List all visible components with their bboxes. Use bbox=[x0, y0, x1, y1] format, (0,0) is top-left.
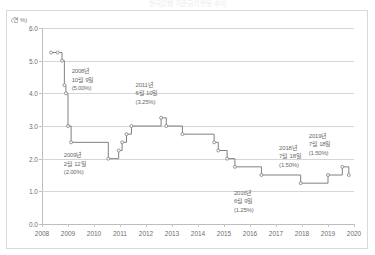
annotation-a2016: 2016년6월 9일(1.25%) bbox=[234, 189, 254, 215]
x-tick-label: 2010 bbox=[87, 230, 101, 237]
data-point-marker bbox=[181, 133, 184, 136]
x-tick-label: 2014 bbox=[191, 230, 205, 237]
x-tick-mark bbox=[250, 224, 251, 227]
x-tick-label: 2015 bbox=[217, 230, 231, 237]
data-point-marker bbox=[327, 174, 330, 177]
y-tick-label: 2.0 bbox=[29, 155, 38, 162]
data-point-marker bbox=[117, 149, 120, 152]
annotation-rate: (1.50%) bbox=[279, 161, 301, 170]
x-tick-mark bbox=[172, 224, 173, 227]
x-tick-mark bbox=[276, 224, 277, 227]
x-tick-mark bbox=[146, 224, 147, 227]
annotation-year: 2008년 bbox=[72, 67, 94, 76]
y-tick-label: 1.0 bbox=[29, 188, 38, 195]
data-point-marker bbox=[260, 174, 263, 177]
annotation-rate: (3.25%) bbox=[136, 98, 158, 107]
x-tick-label: 2016 bbox=[243, 230, 257, 237]
x-tick-label: 2008 bbox=[35, 230, 49, 237]
data-point-marker bbox=[125, 133, 128, 136]
annotation-year: 2018년 bbox=[279, 144, 301, 153]
x-tick-mark bbox=[328, 224, 329, 227]
x-tick-mark bbox=[68, 224, 69, 227]
x-tick-mark bbox=[120, 224, 121, 227]
data-point-marker bbox=[121, 141, 124, 144]
data-point-marker bbox=[130, 125, 133, 128]
x-tick-mark bbox=[224, 224, 225, 227]
annotation-year: 2009년 bbox=[64, 151, 86, 160]
x-tick-mark bbox=[302, 224, 303, 227]
x-tick-label: 2017 bbox=[269, 230, 283, 237]
data-point-marker bbox=[67, 125, 70, 128]
y-tick-label: 3.0 bbox=[29, 123, 38, 130]
annotation-date: 6월 9일 bbox=[234, 197, 254, 206]
data-point-marker bbox=[341, 165, 344, 168]
annotation-date: 6월 10일 bbox=[136, 89, 158, 98]
x-tick-mark bbox=[94, 224, 95, 227]
x-tick-label: 2018 bbox=[295, 230, 309, 237]
data-point-marker bbox=[50, 51, 53, 54]
data-point-marker bbox=[226, 157, 229, 160]
y-tick-label: 4.0 bbox=[29, 90, 38, 97]
annotation-year: 2019년 bbox=[309, 132, 331, 141]
x-tick-label: 2012 bbox=[139, 230, 153, 237]
x-tick-mark bbox=[354, 224, 355, 227]
y-tick-label: 0.0 bbox=[29, 221, 38, 228]
x-tick-mark bbox=[42, 224, 43, 227]
data-point-marker bbox=[61, 59, 64, 62]
annotation-a2011: 2011년6월 10일(3.25%) bbox=[136, 81, 158, 107]
annotation-date: 2월 12일 bbox=[64, 160, 86, 169]
plot-area: 0.01.02.03.04.05.06.0 200820092010201120… bbox=[42, 28, 354, 224]
y-tick-label: 6.0 bbox=[29, 25, 38, 32]
y-axis-unit-label: (연 %) bbox=[11, 15, 27, 24]
annotation-a2008: 2008년10월 9일(5.00%) bbox=[72, 67, 94, 93]
chart-title: 한국은행 기준금리 변동 추이 bbox=[0, 0, 375, 9]
data-point-marker bbox=[160, 116, 163, 119]
x-tick-label: 2013 bbox=[165, 230, 179, 237]
x-tick-label: 2019 bbox=[321, 230, 335, 237]
data-point-marker bbox=[299, 182, 302, 185]
rate-step-series bbox=[42, 28, 354, 224]
annotation-date: 10월 9일 bbox=[72, 76, 94, 85]
y-tick-label: 5.0 bbox=[29, 57, 38, 64]
data-point-marker bbox=[63, 84, 66, 87]
annotation-rate: (1.50%) bbox=[309, 149, 331, 158]
annotation-rate: (5.00%) bbox=[72, 84, 94, 93]
annotation-date: 7월 18일 bbox=[309, 140, 331, 149]
annotation-rate: (1.25%) bbox=[234, 206, 254, 215]
annotation-a2019: 2019년7월 18일(1.50%) bbox=[309, 132, 331, 158]
x-tick-label: 2011 bbox=[113, 230, 127, 237]
x-tick-label: 2020 bbox=[347, 230, 361, 237]
annotation-a2009: 2009년2월 12일(2.00%) bbox=[64, 151, 86, 177]
data-point-marker bbox=[213, 141, 216, 144]
chart-root: 한국은행 기준금리 변동 추이 (연 %) 0.01.02.03.04.05.0… bbox=[0, 0, 375, 255]
data-point-marker bbox=[64, 92, 67, 95]
data-point-marker bbox=[56, 51, 59, 54]
annotation-date: 7월 18일 bbox=[279, 152, 301, 161]
x-tick-mark bbox=[198, 224, 199, 227]
data-point-marker bbox=[233, 165, 236, 168]
data-point-markers bbox=[50, 51, 351, 185]
step-line bbox=[51, 53, 349, 184]
data-point-marker bbox=[165, 125, 168, 128]
data-point-marker bbox=[70, 141, 73, 144]
data-point-marker bbox=[107, 157, 110, 160]
annotation-year: 2016년 bbox=[234, 189, 254, 198]
annotation-year: 2011년 bbox=[136, 81, 158, 90]
x-tick-label: 2009 bbox=[61, 230, 75, 237]
annotation-rate: (2.00%) bbox=[64, 168, 86, 177]
data-point-marker bbox=[217, 149, 220, 152]
annotation-a2018: 2018년7월 18일(1.50%) bbox=[279, 144, 301, 170]
data-point-marker bbox=[347, 174, 350, 177]
